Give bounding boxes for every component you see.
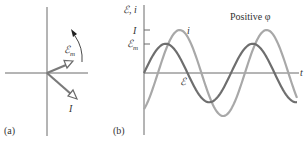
current-phasor <box>47 73 71 94</box>
emf-phasor-arrowhead-icon <box>64 61 73 69</box>
y-tick-label-I: I <box>133 26 136 36</box>
emf-phasor-label: ℰm <box>64 45 75 58</box>
current-curve-label: i <box>187 26 190 36</box>
y-axis-label: ℰ, i <box>123 5 137 15</box>
emf-curve-label: ℰ <box>180 77 186 87</box>
current-phasor-label: I <box>69 104 72 114</box>
panel-a-label: (a) <box>4 126 15 136</box>
waveform-plot <box>144 5 299 135</box>
phasor-diagram <box>5 7 88 136</box>
t-axis-label: t <box>300 68 303 78</box>
emf-phasor <box>47 65 66 73</box>
y-tick-label-Em: ℰm <box>127 39 138 52</box>
rotation-arc <box>75 36 82 62</box>
positive-phi-annotation: Positive φ <box>230 12 271 22</box>
rotation-arrowhead-icon <box>71 29 77 37</box>
panel-b-label: (b) <box>113 126 125 136</box>
